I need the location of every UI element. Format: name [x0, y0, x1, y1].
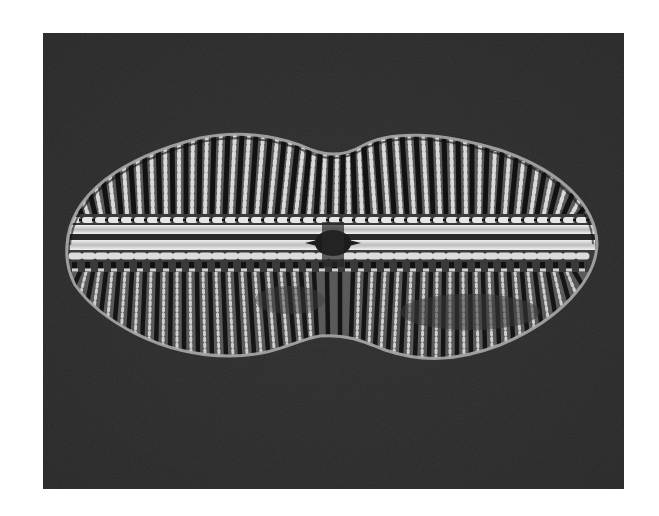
diatom-valve — [60, 125, 605, 365]
figure — [0, 0, 659, 516]
diatom-micrograph — [43, 33, 624, 489]
